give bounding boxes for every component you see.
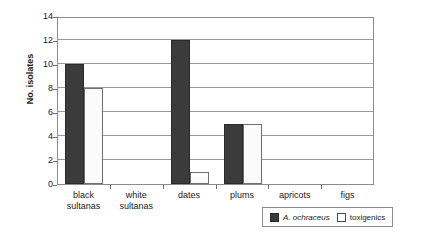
x-axis-tick-mark bbox=[268, 185, 269, 189]
x-axis-label-white-sultanas: whitesultanas bbox=[110, 190, 163, 212]
y-axis-tick-label: 2 bbox=[9, 156, 53, 165]
plot-area bbox=[57, 17, 374, 185]
x-axis-tick-mark bbox=[163, 185, 164, 189]
gridline bbox=[58, 159, 373, 160]
x-axis-label-plums: plums bbox=[216, 190, 269, 201]
x-axis-label-dates: dates bbox=[163, 190, 216, 201]
x-axis-label-line: sultanas bbox=[110, 201, 163, 212]
y-axis-tick-label: 14 bbox=[9, 12, 53, 21]
legend-entry-a-ochraceus: A. ochraceus bbox=[270, 213, 330, 222]
x-axis-label-line: sultanas bbox=[57, 201, 110, 212]
bar-plums-a-ochraceus bbox=[224, 124, 243, 184]
x-axis-label-line: black bbox=[57, 190, 110, 201]
gridline bbox=[58, 135, 373, 136]
bar-plums-toxigenics bbox=[243, 124, 262, 184]
gridline bbox=[58, 111, 373, 112]
legend-swatch-icon bbox=[270, 213, 279, 222]
bar-dates-toxigenics bbox=[190, 172, 209, 184]
y-axis-tick-label: 12 bbox=[9, 36, 53, 45]
x-axis-label-line: apricots bbox=[268, 190, 321, 201]
gridline bbox=[58, 39, 373, 40]
x-axis-label-black-sultanas: blacksultanas bbox=[57, 190, 110, 212]
x-axis-label-apricots: apricots bbox=[268, 190, 321, 201]
x-axis-label-figs: figs bbox=[321, 190, 374, 201]
chart-legend: A. ochraceustoxigenics bbox=[262, 207, 393, 227]
legend-entry-toxigenics: toxigenics bbox=[337, 213, 386, 222]
gridline bbox=[58, 63, 373, 64]
x-axis-label-line: plums bbox=[216, 190, 269, 201]
x-axis-tick-mark bbox=[110, 185, 111, 189]
y-axis-tick-mark bbox=[53, 185, 57, 186]
y-axis-tick-label: 8 bbox=[9, 84, 53, 93]
x-axis-tick-mark bbox=[216, 185, 217, 189]
y-axis-tick-label: 10 bbox=[9, 60, 53, 69]
gridline bbox=[58, 87, 373, 88]
y-axis-tick-label: 6 bbox=[9, 108, 53, 117]
bar-black-sultanas-a-ochraceus bbox=[65, 64, 84, 184]
x-axis-label-line: figs bbox=[321, 190, 374, 201]
y-axis-tick-label: 4 bbox=[9, 132, 53, 141]
legend-label: toxigenics bbox=[350, 213, 386, 222]
bar-black-sultanas-toxigenics bbox=[84, 88, 103, 184]
legend-swatch-icon bbox=[337, 213, 346, 222]
legend-label: A. ochraceus bbox=[283, 213, 330, 222]
x-axis-label-line: white bbox=[110, 190, 163, 201]
bar-chart-figure: No. isolates 02468101214 blacksultanaswh… bbox=[0, 0, 431, 242]
bar-dates-a-ochraceus bbox=[171, 40, 190, 184]
x-axis-tick-mark bbox=[321, 185, 322, 189]
x-axis-label-line: dates bbox=[163, 190, 216, 201]
y-axis-tick-label: 0 bbox=[9, 180, 53, 189]
